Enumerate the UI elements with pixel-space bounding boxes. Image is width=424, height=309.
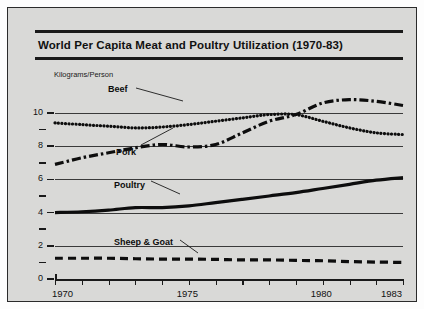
- leader-line-beef: [136, 88, 183, 101]
- series-label-sheep-goat: Sheep & Goat: [114, 237, 173, 247]
- leader-line-sheep-goat: [180, 240, 198, 253]
- screenshot-root: World Per Capita Meat and Poultry Utiliz…: [0, 0, 424, 309]
- plot-area: 0246810 1970197519801983: [55, 98, 403, 279]
- series-label-beef: Beef: [108, 84, 128, 94]
- leader-line-pork: [141, 128, 173, 145]
- series-label-poultry: Poultry: [114, 180, 145, 190]
- chart-card: World Per Capita Meat and Poultry Utiliz…: [7, 7, 417, 302]
- annotation-leaders: [8, 8, 418, 303]
- series-label-pork: Pork: [116, 147, 136, 157]
- leader-line-poultry: [151, 181, 180, 194]
